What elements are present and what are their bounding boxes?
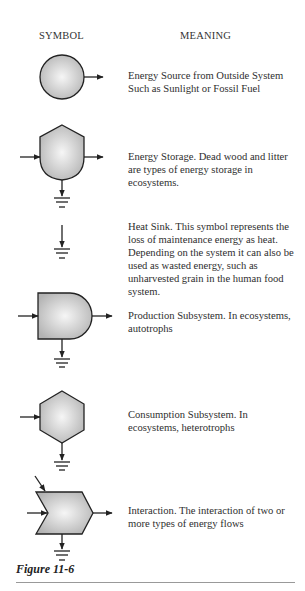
meaning-energy-source: Energy Source from Outside System Such a… xyxy=(128,69,300,95)
energy-source-icon xyxy=(40,55,103,99)
ground-icon xyxy=(54,359,70,367)
meaning-production-subsystem: Production Subsystem. In ecosystems, aut… xyxy=(128,309,300,335)
ground-icon xyxy=(54,198,70,207)
meaning-consumption-subsystem: Consumption Subsystem. In ecosystems, he… xyxy=(128,408,300,434)
consumption-subsystem-icon xyxy=(20,391,84,470)
heat-sink-icon xyxy=(54,225,70,258)
diagonal-input-arrow-icon xyxy=(35,476,45,491)
production-subsystem-icon xyxy=(18,293,112,367)
meaning-heat-sink: Heat Sink. This symbol represents the lo… xyxy=(128,220,300,298)
energy-storage-icon xyxy=(20,125,103,207)
figure-caption: Figure 11-6 xyxy=(16,562,74,577)
ground-icon xyxy=(54,462,70,470)
ground-icon xyxy=(54,249,70,258)
bottom-rule xyxy=(16,582,295,583)
ground-icon xyxy=(54,551,70,560)
meaning-interaction: Interaction. The interaction of two or m… xyxy=(128,504,300,530)
meaning-energy-storage: Energy Storage. Dead wood and litter are… xyxy=(128,150,300,189)
interaction-icon xyxy=(27,476,112,560)
